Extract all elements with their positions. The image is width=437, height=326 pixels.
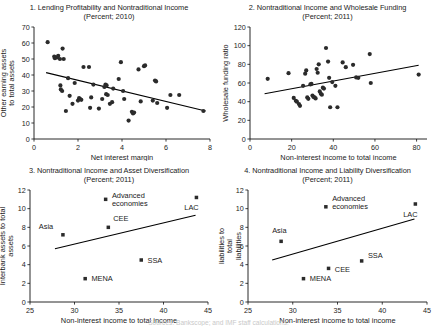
panel-3: 3. Nontraditional Income and Asset Diver… xyxy=(0,163,218,326)
y-tick-label: 20 xyxy=(238,116,246,125)
data-point xyxy=(316,71,320,75)
data-point xyxy=(66,76,70,80)
y-tick-label: 60 xyxy=(22,39,30,48)
data-point xyxy=(61,47,65,51)
figure-footnote: Sources: Bankscope; and IMF staff calcul… xyxy=(0,319,437,326)
figure-panel-grid: 1. Lending Profitability and Nontraditio… xyxy=(0,0,437,326)
panel-3-title: 3. Nontraditional Income and Asset Diver… xyxy=(0,163,218,175)
y-axis-title: Interbank assets to totalassets xyxy=(0,206,15,285)
data-point xyxy=(326,59,330,63)
data-point xyxy=(87,65,91,69)
y-tick-label: 40 xyxy=(238,97,246,106)
data-point xyxy=(195,196,199,200)
data-point xyxy=(64,109,68,113)
panel-2-subtitle: (Percent; 2011) xyxy=(218,12,437,21)
x-tick-label: 60 xyxy=(371,143,379,152)
data-point xyxy=(306,97,310,101)
data-point xyxy=(344,65,348,69)
data-point-label: CEE xyxy=(113,214,128,223)
data-point xyxy=(104,198,108,202)
y-tick-label: 10 xyxy=(236,204,244,213)
x-tick-label: 40 xyxy=(160,306,168,315)
x-tick-label: 35 xyxy=(115,306,123,315)
data-point xyxy=(79,98,83,102)
panel-3-subtitle: (Percent; 2011) xyxy=(0,175,218,184)
y-tick-label: 60 xyxy=(238,79,246,88)
data-point xyxy=(127,119,131,123)
x-tick-label: 40 xyxy=(329,143,337,152)
x-axis-title: Non-interest income to total income xyxy=(280,153,396,162)
panel-1-plot: 01020304050607002468Net interest marginO… xyxy=(0,21,218,161)
y-tick-label: 100 xyxy=(234,41,246,50)
panel-4-title: 4. Nontraditional Income and Liability D… xyxy=(218,163,437,175)
x-tick-label: 30 xyxy=(289,306,297,315)
x-tick-label: 25 xyxy=(26,306,34,315)
data-point xyxy=(111,87,115,91)
data-point xyxy=(309,82,313,86)
data-point xyxy=(330,80,334,84)
data-point xyxy=(58,83,62,87)
data-point xyxy=(91,83,95,87)
data-point xyxy=(121,89,125,93)
data-point-label: Asia xyxy=(272,226,287,235)
data-point xyxy=(327,267,331,271)
y-tick-label: 20 xyxy=(22,103,30,112)
data-point-label: MENA xyxy=(310,274,331,283)
data-point xyxy=(58,57,62,61)
panel-2-title: 2. Nontraditional Income and Wholesale F… xyxy=(218,0,437,12)
data-point xyxy=(70,102,74,106)
x-tick-label: 30 xyxy=(71,306,79,315)
x-tick-label: 2 xyxy=(76,143,80,152)
y-axis-title: Interbankliabilities tototalliabilities xyxy=(218,228,243,264)
x-tick-label: 8 xyxy=(208,143,212,152)
y-tick-label: 8 xyxy=(22,223,26,232)
data-point xyxy=(106,93,110,97)
data-point xyxy=(360,259,364,263)
data-point xyxy=(313,96,317,100)
data-point xyxy=(369,81,373,85)
x-tick-label: 20 xyxy=(288,143,296,152)
data-point xyxy=(60,89,64,93)
y-tick-label: 4 xyxy=(240,260,244,269)
y-axis-title: Wholesale funding ratio xyxy=(221,44,230,121)
x-tick-label: 6 xyxy=(164,143,168,152)
data-point-label: CEE xyxy=(335,265,350,274)
y-tick-label: 12 xyxy=(236,186,244,195)
data-point xyxy=(327,76,331,80)
data-point xyxy=(110,100,114,104)
data-point xyxy=(320,93,324,97)
y-tick-label: 40 xyxy=(22,71,30,80)
data-point xyxy=(140,258,144,262)
data-point xyxy=(46,40,50,44)
data-point xyxy=(335,105,339,109)
data-point xyxy=(328,105,332,109)
panel-2-plot: 020406080100120020406080Non-interest inc… xyxy=(218,21,437,161)
x-tick-label: 0 xyxy=(248,143,252,152)
data-point xyxy=(61,233,65,237)
y-tick-label: 30 xyxy=(22,87,30,96)
data-point-label: Asia xyxy=(39,222,54,231)
data-point xyxy=(315,67,319,71)
trend-line xyxy=(272,219,414,260)
panel-4: 4. Nontraditional Income and Liability D… xyxy=(218,163,437,326)
data-point xyxy=(154,79,158,83)
x-tick-label: 80 xyxy=(413,143,421,152)
data-point xyxy=(151,99,155,103)
panel-3-plot: 0246810122530354045Non-interest income t… xyxy=(0,184,218,324)
y-tick-label: 0 xyxy=(26,135,30,144)
data-point-label: MENA xyxy=(91,274,112,283)
y-tick-label: 12 xyxy=(18,186,26,195)
y-axis-title: Other earning assetsto total assets xyxy=(0,48,16,117)
data-point xyxy=(119,60,123,64)
y-tick-label: 0 xyxy=(242,135,246,144)
y-tick-label: 2 xyxy=(22,279,26,288)
x-tick-label: 0 xyxy=(32,143,36,152)
data-point xyxy=(100,97,104,101)
data-point xyxy=(368,52,372,56)
data-point xyxy=(279,240,283,244)
data-point xyxy=(81,65,85,69)
x-tick-label: 25 xyxy=(244,306,252,315)
y-tick-label: 70 xyxy=(22,23,30,32)
x-tick-label: 40 xyxy=(378,306,386,315)
x-tick-label: 45 xyxy=(423,306,431,315)
